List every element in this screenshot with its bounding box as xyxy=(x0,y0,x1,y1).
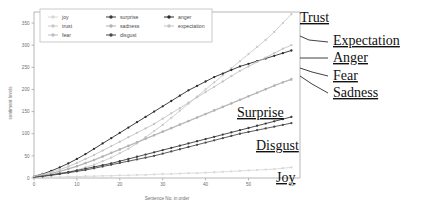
y-tick-label: 250 xyxy=(22,65,30,70)
x-axis-label: Sentence No. in order xyxy=(145,196,190,201)
legend-label: joy xyxy=(61,14,69,20)
series-sadness xyxy=(33,79,293,178)
legend-label: disgust xyxy=(120,32,137,38)
chart-legend[interactable]: joytrustfearsurprisesadnessdisgustangere… xyxy=(40,9,212,42)
annotation-sadness: Sadness xyxy=(333,85,378,100)
x-tick-label: 50 xyxy=(246,182,252,187)
y-tick-label: 0 xyxy=(27,176,30,181)
annotation-fear: Fear xyxy=(333,68,358,83)
chart-annotations: TrustExpectationAngerFearSadnessSurprise… xyxy=(237,10,400,185)
x-axis-ticks: 0102030405060 xyxy=(33,178,295,187)
annotation-trust: Trust xyxy=(300,10,329,25)
annotation-surprise: Surprise xyxy=(237,105,284,120)
annotation-joy: Joy xyxy=(276,170,295,185)
x-tick-label: 20 xyxy=(117,182,123,187)
legend-label: sadness xyxy=(120,23,140,29)
x-tick-label: 30 xyxy=(160,182,166,187)
sentiment-line-chart: 050100150200250300350 0102030405060 sent… xyxy=(0,0,429,211)
y-tick-label: 100 xyxy=(22,131,30,136)
y-tick-label: 50 xyxy=(24,154,30,159)
annotation-disgust: Disgust xyxy=(256,138,299,153)
y-axis-ticks: 050100150200250300350 xyxy=(22,21,34,181)
x-tick-label: 40 xyxy=(203,182,209,187)
y-axis-label: sentiment levels xyxy=(8,86,13,120)
legend-label: fear xyxy=(62,32,71,38)
x-tick-label: 10 xyxy=(74,182,80,187)
annotation-expectation: Expectation xyxy=(333,33,400,48)
y-tick-label: 300 xyxy=(22,43,30,48)
x-tick-label: 0 xyxy=(33,182,36,187)
chart-figure: 050100150200250300350 0102030405060 sent… xyxy=(0,0,429,211)
legend-label: surprise xyxy=(120,14,139,20)
y-tick-label: 200 xyxy=(22,87,30,92)
annotation-anger: Anger xyxy=(333,50,368,65)
legend-label: anger xyxy=(178,14,192,20)
legend-label: trust xyxy=(62,23,73,29)
series-fear xyxy=(33,78,293,178)
y-tick-label: 350 xyxy=(22,21,30,26)
y-tick-label: 150 xyxy=(22,109,30,114)
legend-label: expectation xyxy=(178,23,205,29)
